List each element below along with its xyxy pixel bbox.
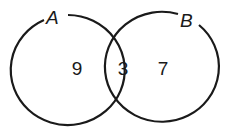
- venn-diagram: A B 9 3 7: [0, 0, 231, 131]
- intersection-count: 3: [118, 58, 129, 79]
- set-a-only-count: 9: [72, 58, 83, 79]
- set-a-label: A: [45, 7, 59, 28]
- set-a-circle: [11, 15, 125, 125]
- venn-svg: A B 9 3 7: [0, 0, 231, 131]
- set-b-label: B: [180, 10, 193, 31]
- set-b-only-count: 7: [158, 58, 169, 79]
